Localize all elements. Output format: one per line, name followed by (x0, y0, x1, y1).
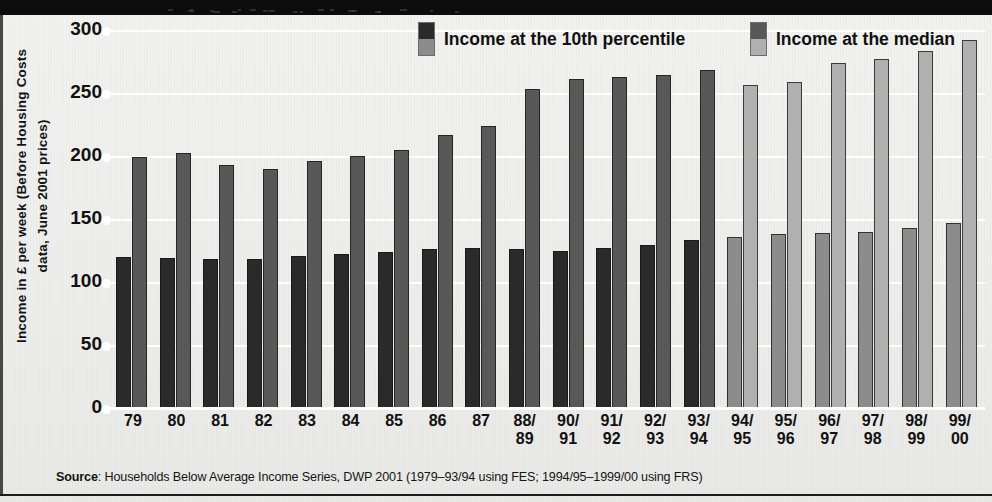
x-tick-label: 79 (116, 412, 150, 458)
bar-10th-percentile (684, 240, 699, 408)
x-tick-label-line1: 85 (385, 412, 403, 429)
x-tick-label: 85 (377, 412, 411, 458)
bar-group (291, 30, 322, 408)
page-left-rule (0, 15, 3, 494)
bar-median (132, 157, 147, 408)
bar-group (596, 30, 627, 408)
y-tick-label: 150 (30, 207, 102, 229)
bar-median (350, 156, 365, 408)
bar-group (378, 30, 409, 408)
x-tick-label: 94/95 (725, 412, 759, 458)
bar-group (247, 30, 278, 408)
x-tick-label-line2: 99 (899, 430, 933, 448)
bar-median (307, 161, 322, 408)
bar-10th-percentile (465, 248, 480, 408)
bar-10th-percentile (422, 249, 437, 408)
x-tick-label: 92/93 (638, 412, 672, 458)
x-tick-label-line2: 00 (943, 430, 977, 448)
bar-median (787, 82, 802, 408)
x-tick-label-line1: 96/ (818, 412, 840, 429)
scan-speck (232, 11, 237, 13)
bar-median (219, 165, 234, 408)
scan-speck (188, 10, 194, 12)
y-tick-label: 200 (30, 144, 102, 166)
bar-10th-percentile (203, 259, 218, 408)
source-text: : Households Below Average Income Series… (98, 470, 703, 484)
x-tick-label-line1: 83 (298, 412, 316, 429)
bar-10th-percentile (815, 233, 830, 408)
x-tick-label-line1: 94/ (731, 412, 753, 429)
bar-10th-percentile (116, 257, 131, 408)
x-tick-label-line1: 91/ (601, 412, 623, 429)
x-tick-label-line1: 98/ (905, 412, 927, 429)
bar-group (946, 30, 977, 408)
bar-group (684, 30, 715, 408)
x-tick-label: 86 (421, 412, 455, 458)
x-tick-label: 84 (334, 412, 368, 458)
x-tick-label-line1: 80 (168, 412, 186, 429)
scan-speck (455, 11, 459, 13)
chart-legend: Income at the 10th percentileIncome at t… (0, 22, 992, 56)
bar-10th-percentile (858, 232, 873, 408)
x-tick-label: 88/89 (508, 412, 542, 458)
x-tick-label-line1: 90/ (557, 412, 579, 429)
scan-speck (213, 11, 220, 13)
legend-label: Income at the 10th percentile (444, 29, 685, 50)
x-tick-label-line2: 89 (508, 430, 542, 448)
bar-group (334, 30, 365, 408)
axis-baseline (108, 407, 985, 409)
y-tick-label: 50 (30, 333, 102, 355)
x-tick-label: 96/97 (812, 412, 846, 458)
x-tick-label-line1: 82 (255, 412, 273, 429)
legend-swatch-top (751, 23, 766, 39)
y-tick-label: 100 (30, 270, 102, 292)
bar-median (874, 59, 889, 408)
legend-swatch-top (419, 23, 434, 39)
bar-group (422, 30, 453, 408)
x-tick-label: 90/91 (551, 412, 585, 458)
x-axis-tick-labels: 79808182838485868788/8990/9191/9292/9393… (108, 412, 985, 458)
bar-10th-percentile (596, 248, 611, 408)
page-bottom-rule (0, 494, 992, 496)
bar-median (656, 75, 671, 408)
bar-10th-percentile (553, 251, 568, 409)
bar-group (815, 30, 846, 408)
scan-speck (268, 10, 275, 12)
bar-group (160, 30, 191, 408)
bar-median (700, 70, 715, 408)
scan-speck (400, 9, 407, 11)
x-tick-label: 98/99 (899, 412, 933, 458)
bar-group (727, 30, 758, 408)
bar-group (553, 30, 584, 408)
y-axis-tick-labels: 050100150200250300 (30, 30, 102, 408)
x-tick-label-line1: 79 (124, 412, 142, 429)
x-tick-label-line2: 91 (551, 430, 585, 448)
bar-median (743, 85, 758, 408)
x-tick-label-line2: 94 (682, 430, 716, 448)
x-tick-label-line1: 99/ (949, 412, 971, 429)
bar-median (263, 169, 278, 408)
legend-swatch-bottom (419, 39, 434, 55)
legend-label: Income at the median (776, 29, 955, 50)
bar-10th-percentile (334, 254, 349, 408)
x-tick-label-line2: 98 (856, 430, 890, 448)
scan-speck (378, 11, 381, 13)
x-tick-label: 80 (160, 412, 194, 458)
bar-median (481, 126, 496, 408)
x-tick-label-line1: 97/ (862, 412, 884, 429)
bar-median (569, 79, 584, 408)
legend-item[interactable]: Income at the 10th percentile (418, 22, 685, 56)
scan-speck (293, 11, 298, 13)
bar-group (771, 30, 802, 408)
x-tick-label: 81 (203, 412, 237, 458)
bar-group (509, 30, 540, 408)
legend-swatch-bottom (751, 39, 766, 55)
scan-speck (168, 9, 173, 11)
bar-10th-percentile (160, 258, 175, 408)
x-tick-label-line1: 84 (342, 412, 360, 429)
y-tick-label: 0 (30, 396, 102, 418)
scan-speck (238, 9, 241, 11)
x-tick-label: 99/00 (943, 412, 977, 458)
bar-10th-percentile (640, 245, 655, 408)
legend-item[interactable]: Income at the median (750, 22, 955, 56)
